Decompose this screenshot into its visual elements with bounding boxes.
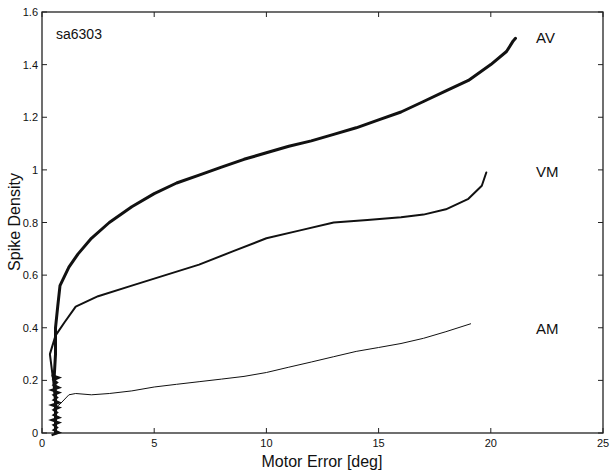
plot-area-frame [42,12,603,433]
x-axis-label: Motor Error [deg] [262,453,383,470]
y-tick-label: 0 [32,427,38,439]
series-label-av: AV [536,29,555,46]
x-tick-label: 5 [151,437,157,449]
x-tick-label: 10 [260,437,272,449]
y-tick-label: 0.6 [23,269,38,281]
y-tick-label: 1.6 [23,6,38,18]
y-tick-label: 1.4 [23,59,38,71]
x-tick-label: 20 [485,437,497,449]
y-tick-label: 1.2 [23,111,38,123]
series-label-am: AM [536,320,559,337]
y-tick-label: 0.4 [23,322,38,334]
y-tick-label: 0.8 [23,217,38,229]
y-axis-label: Spike Density [6,173,23,271]
y-tick-label: 1 [32,164,38,176]
series-label-vm: VM [536,163,559,180]
x-tick-label: 0 [39,437,45,449]
dataset-annotation: sa6303 [56,26,102,42]
spike-density-chart: 051015202500.20.40.60.811.21.41.6 sa6303… [0,0,616,475]
x-tick-label: 15 [372,437,384,449]
y-tick-label: 0.2 [23,374,38,386]
x-tick-label: 25 [597,437,609,449]
